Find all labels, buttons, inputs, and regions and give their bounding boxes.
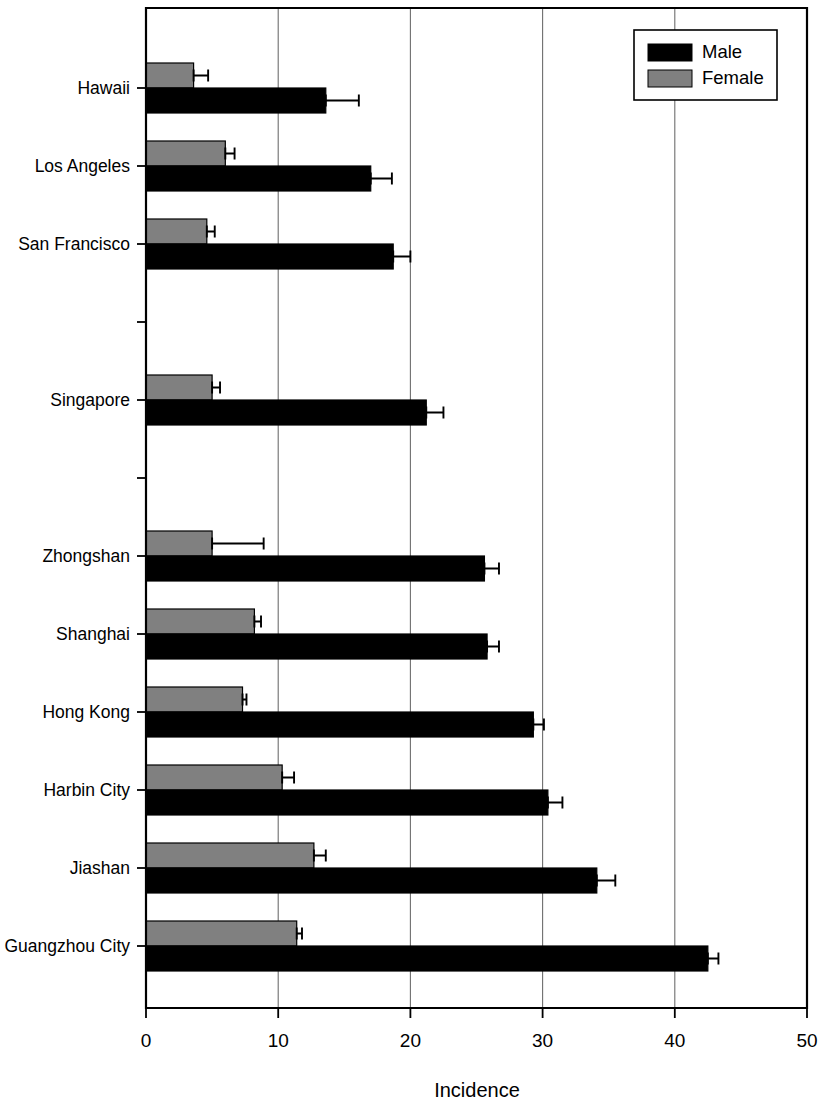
y-tick-label: San Francisco xyxy=(18,234,130,254)
grouped-bar-chart: HawaiiLos AngelesSan FranciscoSingaporeZ… xyxy=(0,0,820,1108)
legend-swatch-male xyxy=(648,44,692,61)
chart-figure: HawaiiLos AngelesSan FranciscoSingaporeZ… xyxy=(0,0,820,1108)
y-tick-label: Jiashan xyxy=(70,858,130,878)
y-tick-label: Shanghai xyxy=(56,624,130,644)
y-tick-label: Hong Kong xyxy=(42,702,130,722)
x-tick-label: 20 xyxy=(400,1030,421,1051)
bar-male xyxy=(146,946,708,971)
x-tick-label: 40 xyxy=(664,1030,685,1051)
bar-female xyxy=(146,609,254,634)
y-tick-label: Guangzhou City xyxy=(5,936,131,956)
y-axis-ticks xyxy=(137,88,146,946)
y-tick-label: Zhongshan xyxy=(42,546,130,566)
x-tick-label: 10 xyxy=(268,1030,289,1051)
x-tick-label: 50 xyxy=(796,1030,817,1051)
x-tick-label: 0 xyxy=(141,1030,152,1051)
bar-female xyxy=(146,219,207,244)
y-tick-label: Hawaii xyxy=(77,78,130,98)
bar-female xyxy=(146,687,243,712)
bar-male xyxy=(146,634,487,659)
bar-male xyxy=(146,712,533,737)
x-axis-title: Incidence xyxy=(434,1079,520,1101)
bar-male xyxy=(146,790,548,815)
bar-male xyxy=(146,556,484,581)
legend-swatch-female xyxy=(648,70,692,87)
bar-male xyxy=(146,868,597,893)
y-tick-label: Harbin City xyxy=(43,780,130,800)
x-tick-label: 30 xyxy=(532,1030,553,1051)
bar-male xyxy=(146,244,393,269)
bar-female xyxy=(146,765,282,790)
bar-female xyxy=(146,63,194,88)
x-axis-ticks: 01020304050 xyxy=(141,1008,818,1051)
y-tick-label: Singapore xyxy=(50,390,130,410)
bar-female xyxy=(146,375,212,400)
bar-female xyxy=(146,843,314,868)
bar-male xyxy=(146,400,426,425)
legend-label-female: Female xyxy=(702,67,764,88)
bar-female xyxy=(146,141,225,166)
legend: Male Female xyxy=(634,30,777,100)
bar-male xyxy=(146,88,326,113)
y-tick-label: Los Angeles xyxy=(35,156,131,176)
y-axis-labels: HawaiiLos AngelesSan FranciscoSingaporeZ… xyxy=(5,78,131,956)
bar-female xyxy=(146,921,297,946)
bar-female xyxy=(146,531,212,556)
bar-male xyxy=(146,166,371,191)
legend-label-male: Male xyxy=(702,41,742,62)
